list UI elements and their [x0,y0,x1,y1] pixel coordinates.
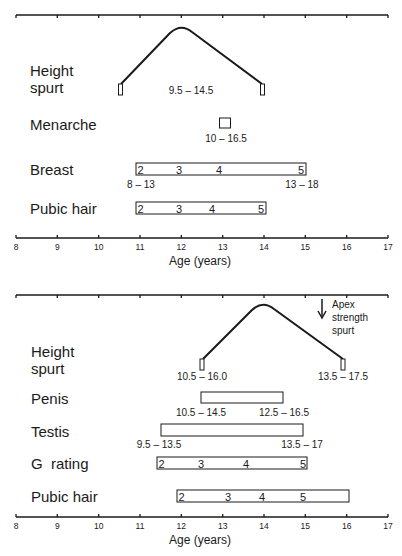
height-spurt-label-line1: Height [30,62,74,79]
g-rating-label: G rating [31,455,89,472]
penis-end-range: 12.5 – 16.5 [259,407,309,418]
pubic-stage-3: 3 [176,203,182,215]
x-axis-title: Age (years) [169,254,231,268]
tick-label: 14 [259,521,269,531]
tick-label: 15 [301,242,311,252]
top-panel-upper-axis [16,15,388,18]
penis-label: Penis [31,390,69,407]
menarche-marker [220,118,231,128]
tick-label: 8 [14,521,19,531]
pubic-stage-5: 5 [300,491,306,503]
height-spurt-curve [121,28,262,84]
x-axis-title: Age (years) [169,533,231,547]
height-spurt-label-line2: spurt [30,79,64,96]
g-stage-4: 4 [243,458,249,470]
tick-label: 16 [342,242,352,252]
height-spurt-start-marker [119,84,123,95]
pubic-stage-2: 2 [138,203,144,215]
pubic-hair-label: Pubic hair [30,200,97,217]
bottom-x-axis: 8 9 10 11 12 13 14 15 16 17 Age (years) [14,514,393,547]
height-spurt-range: 9.5 – 14.5 [169,85,214,96]
height-spurt-label-line1: Height [31,343,75,360]
tick-label: 16 [342,521,352,531]
pubic-stage-5: 5 [258,203,264,215]
tick-label: 8 [14,242,19,252]
tick-label: 12 [177,521,187,531]
pubic-stage-4: 4 [209,203,215,215]
g-stage-5: 5 [300,458,306,470]
breast-stage-4: 4 [216,164,222,176]
testis-start-range: 9.5 – 13.5 [137,439,182,450]
pubic-hair-bar [136,202,266,214]
tick-label: 13 [218,521,228,531]
tick-label: 13 [218,242,228,252]
tick-label: 9 [55,242,60,252]
tick-label: 17 [383,521,393,531]
penis-bar [201,392,283,403]
g-rating-bar [157,457,307,469]
bottom-panel-upper-axis [16,295,388,298]
height-spurt-label-line2: spurt [31,360,65,377]
breast-stage-5: 5 [298,164,304,176]
height-spurt-start-marker [200,359,204,370]
pubic-stage-2: 2 [179,491,185,503]
apex-label-line1: Apex [332,299,355,310]
tick-label: 12 [177,242,187,252]
menarche-label: Menarche [30,116,97,133]
menarche-range: 10 – 16.5 [205,133,247,144]
breast-stage-3: 3 [176,164,182,176]
tick-label: 15 [301,521,311,531]
testis-bar [161,424,303,436]
pubic-hair-label: Pubic hair [31,488,98,505]
height-spurt-end-marker [341,359,345,370]
testis-end-range: 13.5 – 17 [281,439,323,450]
apex-strength-spurt-annotation: Apex strength spurt [318,299,368,336]
g-stage-2: 2 [159,458,165,470]
tick-label: 10 [94,242,104,252]
tick-label: 11 [136,242,145,252]
tick-label: 14 [259,242,269,252]
height-spurt-end-marker [261,84,265,95]
apex-label-line3: spurt [332,325,354,336]
height-spurt-end-range: 13.5 – 17.5 [318,371,368,382]
tick-label: 11 [136,521,145,531]
breast-stage-2: 2 [138,164,144,176]
height-spurt-start-range: 10.5 – 16.0 [177,371,227,382]
tick-label: 9 [55,521,60,531]
penis-start-range: 10.5 – 14.5 [176,407,226,418]
breast-start-range: 8 – 13 [127,179,155,190]
top-x-axis: 8 9 10 11 12 13 14 15 16 17 Age (years) [14,235,393,268]
apex-label-line2: strength [332,312,368,323]
tick-label: 17 [383,242,393,252]
pubic-stage-4: 4 [259,491,265,503]
breast-end-range: 13 – 18 [285,179,319,190]
g-stage-3: 3 [198,458,204,470]
tick-label: 10 [94,521,104,531]
bottom-panel: Apex strength spurt Height spurt 10.5 – … [14,295,393,547]
top-panel: Height spurt 9.5 – 14.5 Menarche 10 – 16… [14,15,393,268]
testis-label: Testis [31,423,69,440]
breast-label: Breast [30,161,74,178]
puberty-timeline-diagram: Height spurt 9.5 – 14.5 Menarche 10 – 16… [0,0,402,556]
pubic-stage-3: 3 [225,491,231,503]
